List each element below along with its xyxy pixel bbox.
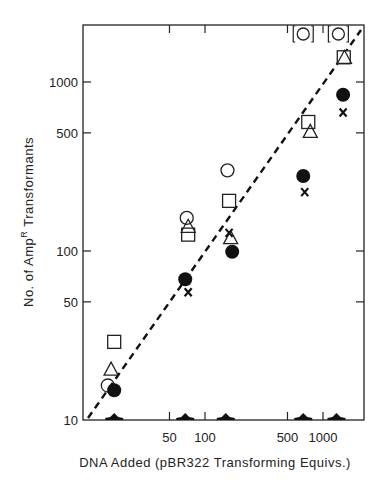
filled-triangle-marker bbox=[105, 413, 123, 420]
cross-marker bbox=[301, 188, 308, 196]
y-tick-label: 100 bbox=[56, 244, 78, 259]
filled-triangle-marker bbox=[294, 413, 312, 420]
plot-frame bbox=[83, 25, 364, 420]
filled-circle-marker bbox=[336, 88, 350, 102]
plot-border bbox=[83, 25, 364, 420]
open-square-marker bbox=[302, 115, 315, 128]
x-tick-label: 100 bbox=[194, 430, 216, 445]
x-tick-label: 500 bbox=[277, 430, 299, 445]
filled-triangle-marker bbox=[217, 413, 235, 420]
x-axis-title: DNA Added (pBR322 Transforming Equivs.) bbox=[79, 455, 351, 470]
cross-marker bbox=[185, 288, 192, 296]
y-axis-title-main: No. of Amp bbox=[21, 238, 36, 307]
offscale-circle-marker bbox=[297, 28, 309, 40]
x-tick-label: 50 bbox=[162, 430, 176, 445]
open-square-marker bbox=[108, 335, 121, 348]
scatter-chart: 501005001000 10501005001000 DNA Added (p… bbox=[0, 0, 388, 480]
offscale-circle-marker bbox=[332, 28, 344, 40]
y-axis-title-suffix: Transformants bbox=[21, 137, 36, 231]
y-axis-title: No. of AmpR Transformants bbox=[19, 137, 36, 307]
dashed-fit-line bbox=[88, 30, 361, 418]
open-square-marker bbox=[182, 228, 195, 241]
filled-triangle-marker bbox=[327, 413, 345, 420]
y-axis-title-superscript: R bbox=[19, 231, 29, 238]
y-tick-label: 1000 bbox=[49, 75, 78, 90]
cross-marker bbox=[340, 108, 347, 116]
y-tick-label: 10 bbox=[64, 413, 78, 428]
open-triangle-marker bbox=[104, 362, 118, 375]
open-square-marker bbox=[223, 194, 236, 207]
data-markers bbox=[101, 26, 351, 420]
y-tick-label: 500 bbox=[56, 126, 78, 141]
filled-circle-marker bbox=[178, 272, 192, 286]
y-tick-label: 50 bbox=[64, 295, 78, 310]
fit-line bbox=[88, 30, 361, 418]
filled-circle-marker bbox=[296, 169, 310, 183]
x-tick-label: 1000 bbox=[309, 430, 338, 445]
filled-triangle-marker bbox=[176, 413, 194, 420]
open-circle-marker bbox=[221, 164, 234, 177]
filled-circle-marker bbox=[107, 383, 121, 397]
filled-circle-marker bbox=[225, 245, 239, 259]
